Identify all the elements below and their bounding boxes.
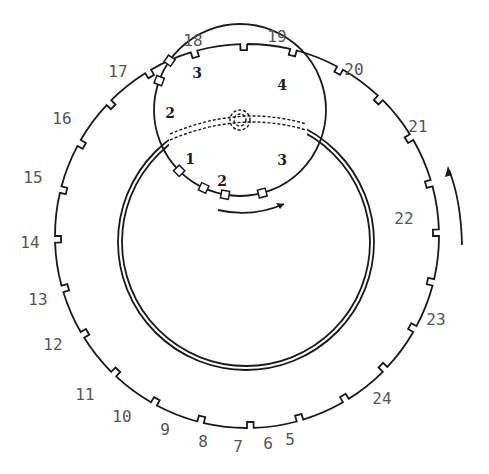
ring-tooth-label: 11 <box>75 385 94 404</box>
gear-notch <box>154 75 164 85</box>
ring-tooth-label: 14 <box>20 233 39 252</box>
inner-ring-outer-line <box>118 114 374 370</box>
ring-tooth-label: 15 <box>23 168 42 187</box>
ring-tooth-label: 24 <box>372 389 391 408</box>
ring-tooth-label: 20 <box>344 60 363 79</box>
gear-tooth-label: 2 <box>217 173 227 189</box>
counterclockwise-arrow <box>449 170 462 245</box>
gear-tooth-label: 2 <box>165 105 175 121</box>
gear-tooth-label: 3 <box>192 65 202 81</box>
ring-tooth-label: 16 <box>52 109 71 128</box>
gear-diagram: 56789101112131415161718192021222324 1232… <box>0 0 489 474</box>
ring-tooth-label: 9 <box>160 420 170 439</box>
ring-tooth-label: 12 <box>43 335 62 354</box>
gear-notch <box>220 190 229 199</box>
ring-tooth-label: 22 <box>394 209 413 228</box>
ring-tooth-label: 10 <box>112 407 131 426</box>
ring-tooth-label: 7 <box>233 437 243 456</box>
gear-tooth-label: 4 <box>277 77 287 93</box>
ring-tooth-label: 8 <box>198 432 208 451</box>
inner-ring-inner-line <box>122 118 370 366</box>
ring-tooth-label: 18 <box>183 31 202 50</box>
ring-tooth-label: 13 <box>28 290 47 309</box>
rotation-arrows <box>218 166 462 245</box>
gear-tooth-label: 1 <box>185 151 195 167</box>
gear-tooth-label: 3 <box>277 152 287 168</box>
ring-tooth-label: 17 <box>108 62 127 81</box>
ring-tooth-label: 19 <box>267 27 286 46</box>
ring-tooth-label: 6 <box>263 434 273 453</box>
clockwise-arrow <box>218 204 284 213</box>
ring-tooth-label: 21 <box>408 117 427 136</box>
ring-tooth-label: 5 <box>285 430 295 449</box>
gear-notch <box>198 183 209 194</box>
gear-notch <box>257 188 267 198</box>
ring-tooth-label: 23 <box>426 310 445 329</box>
